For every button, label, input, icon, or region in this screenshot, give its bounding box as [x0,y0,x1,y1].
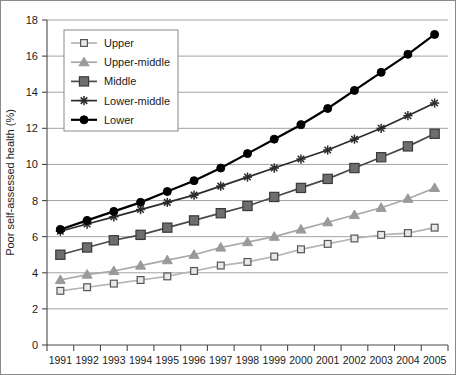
legend-marker [81,40,88,47]
datapoint-lower-1992 [83,216,91,224]
datapoint-upper-1992 [84,284,91,291]
datapoint-middle-1991 [56,250,65,259]
datapoint-upper-1995 [164,273,171,280]
y-tick-label-4: 4 [32,267,38,279]
datapoint-upper-2005 [431,224,438,231]
datapoint-middle-1998 [243,201,252,210]
x-tick-label-1994: 1994 [129,354,153,366]
datapoint-middle-2001 [323,174,332,183]
datapoint-lower-middle-2004 [403,111,412,120]
legend: UpperUpper-middleMiddleLower-middleLower [64,30,178,131]
datapoint-upper-1997 [217,262,224,269]
y-tick-label-8: 8 [32,195,38,207]
datapoint-middle-2000 [296,183,305,192]
datapoint-upper-1998 [244,259,251,266]
datapoint-lower-middle-1996 [189,191,198,200]
legend-marker [79,77,88,86]
legend-label: Middle [104,75,136,87]
line-chart: 0246810121416181991199219931994199519961… [0,0,456,375]
datapoint-middle-2003 [377,153,386,162]
datapoint-upper-2003 [378,231,385,238]
datapoint-lower-middle-2003 [377,124,386,133]
datapoint-lower-2002 [350,86,358,94]
x-tick-label-1998: 1998 [236,354,260,366]
datapoint-upper-2001 [324,240,331,247]
x-tick-label-1992: 1992 [75,354,99,366]
legend-label: Upper [104,37,134,49]
x-tick-label-1996: 1996 [182,354,206,366]
datapoint-lower-1999 [270,135,278,143]
datapoint-lower-2003 [377,68,385,76]
legend-label: Lower-middle [104,95,170,107]
x-tick-label-1993: 1993 [102,354,126,366]
x-tick-label-1999: 1999 [263,354,287,366]
datapoint-lower-1997 [217,164,225,172]
datapoint-lower-1993 [110,207,118,215]
datapoint-lower-middle-2002 [350,135,359,144]
datapoint-lower-2005 [431,30,439,38]
datapoint-middle-1995 [163,223,172,232]
x-tick-label-1991: 1991 [49,354,73,366]
y-tick-label-18: 18 [26,14,38,26]
datapoint-middle-1999 [270,192,279,201]
legend-marker [79,96,88,105]
y-tick-label-12: 12 [26,122,38,134]
legend-label: Upper-middle [104,56,170,68]
datapoint-lower-1996 [190,177,198,185]
legend-marker [80,116,88,124]
y-axis-title: Poor self-assessed health (%) [4,109,16,256]
x-tick-label-2005: 2005 [423,354,447,366]
datapoint-upper-1999 [271,253,278,260]
datapoint-middle-1996 [189,216,198,225]
datapoint-lower-1991 [56,225,64,233]
datapoint-middle-2004 [403,142,412,151]
datapoint-upper-2002 [351,235,358,242]
datapoint-middle-1992 [83,243,92,252]
series-upper [57,224,438,294]
datapoint-lower-2004 [404,50,412,58]
x-tick-label-2001: 2001 [316,354,340,366]
datapoint-middle-1994 [136,230,145,239]
chart-container: 0246810121416181991199219931994199519961… [0,0,456,375]
legend-item-middle[interactable]: Middle [71,75,136,87]
datapoint-lower-middle-2001 [323,145,332,154]
legend-label: Lower [104,114,134,126]
datapoint-lower-middle-1997 [216,182,225,191]
datapoint-upper-1991 [57,287,64,294]
y-tick-label-6: 6 [32,231,38,243]
datapoint-middle-2005 [430,129,439,138]
datapoint-upper-1993 [110,280,117,287]
datapoint-upper-1994 [137,277,144,284]
datapoint-lower-1994 [137,198,145,206]
datapoint-middle-1993 [109,236,118,245]
y-tick-label-14: 14 [26,86,38,98]
y-tick-label-2: 2 [32,303,38,315]
x-tick-label-2003: 2003 [369,354,393,366]
y-tick-label-16: 16 [26,50,38,62]
datapoint-middle-1997 [216,209,225,218]
x-tick-label-2004: 2004 [396,354,420,366]
datapoint-upper-2004 [405,230,412,237]
datapoint-upper-1996 [191,268,198,275]
datapoint-lower-2001 [324,104,332,112]
x-tick-label-1997: 1997 [209,354,233,366]
datapoint-lower-middle-1995 [163,198,172,207]
datapoint-lower-middle-2000 [296,154,305,163]
y-tick-label-0: 0 [32,339,38,351]
datapoint-lower-middle-1999 [270,163,279,172]
datapoint-lower-1998 [244,150,252,158]
x-tick-label-2002: 2002 [343,354,367,366]
datapoint-upper-middle-2005 [430,183,440,192]
y-tick-label-10: 10 [26,158,38,170]
datapoint-lower-middle-2005 [430,98,439,107]
datapoint-lower-middle-1998 [243,172,252,181]
datapoint-lower-2000 [297,121,305,129]
datapoint-middle-2002 [350,163,359,172]
datapoint-lower-1995 [163,188,171,196]
x-tick-label-2000: 2000 [289,354,313,366]
datapoint-upper-2000 [298,246,305,253]
x-tick-label-1995: 1995 [156,354,180,366]
